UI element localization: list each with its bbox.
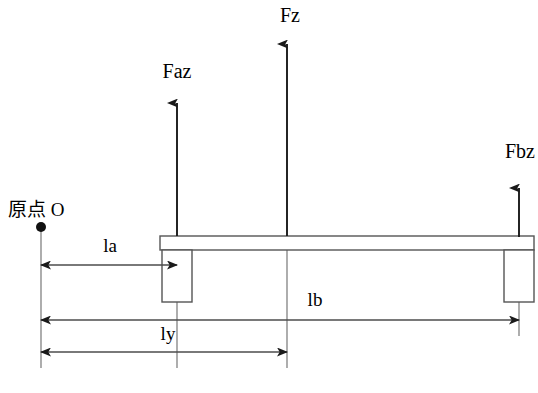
supports [162, 250, 534, 302]
beam-body [160, 236, 534, 250]
origin-point-dot [36, 222, 46, 232]
right-support-block [504, 250, 534, 302]
fbz-label: Fbz [505, 140, 535, 162]
force-vectors [177, 44, 519, 237]
origin-marker [36, 222, 46, 232]
la-label: la [103, 235, 117, 256]
beam [160, 236, 534, 250]
labels: Faz Fz Fbz la lb ly 原点 O [8, 4, 535, 344]
faz-label: Faz [163, 60, 192, 82]
ly-label: ly [161, 323, 176, 344]
beam-force-diagram: Faz Fz Fbz la lb ly 原点 O [0, 0, 538, 393]
diagram-canvas: Faz Fz Fbz la lb ly 原点 O [0, 0, 538, 393]
fz-label: Fz [280, 4, 300, 26]
left-support-block [162, 250, 192, 302]
origin-label: 原点 O [8, 199, 64, 220]
lb-label: lb [308, 289, 323, 310]
dimension-lines [41, 265, 519, 352]
